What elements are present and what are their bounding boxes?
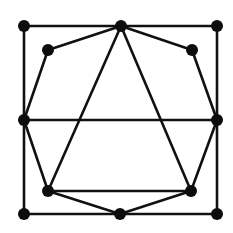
graph-node-br: [211, 208, 223, 220]
graph-edge: [120, 191, 191, 214]
graph-node-ibr: [185, 185, 197, 197]
graph-canvas: [0, 0, 233, 233]
graph-node-itr: [186, 44, 198, 56]
graph-edge: [24, 50, 48, 120]
graph-edge: [48, 26, 121, 50]
graph-edge: [48, 26, 121, 191]
graph-node-tc: [115, 20, 127, 32]
graph-edge: [191, 120, 217, 191]
graph-node-ibl: [42, 185, 54, 197]
graph-node-tl: [18, 20, 30, 32]
graph-node-itl: [42, 44, 54, 56]
graph-node-bl: [18, 208, 30, 220]
graph-node-mr: [211, 114, 223, 126]
graph-diagram: [0, 0, 233, 233]
graph-edge: [121, 26, 191, 191]
graph-edge: [121, 26, 192, 50]
graph-node-tr: [211, 20, 223, 32]
graph-node-ml: [18, 114, 30, 126]
graph-edge: [24, 120, 48, 191]
graph-edge: [48, 191, 120, 214]
graph-edge: [192, 50, 217, 120]
graph-node-bc: [114, 208, 126, 220]
